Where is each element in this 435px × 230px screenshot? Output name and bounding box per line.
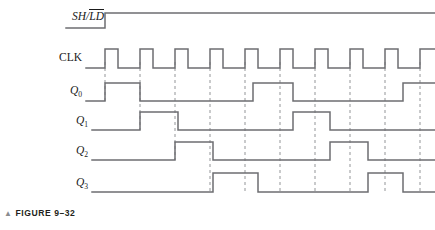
q1-subscript: 1	[84, 120, 88, 129]
caption-triangle-icon: ▲	[4, 209, 12, 218]
waveform-q2	[92, 142, 435, 160]
signal-label-clk: CLK	[46, 51, 82, 63]
timing-diagram-figure: SH/LD CLK Q0 Q1 Q2 Q3 ▲ FIGURE 9–32	[0, 0, 435, 230]
waveform-q1	[92, 112, 435, 130]
waveform-clk	[86, 49, 435, 68]
figure-caption: ▲ FIGURE 9–32	[4, 208, 75, 218]
q2-subscript: 2	[84, 150, 88, 159]
q0-subscript: 0	[78, 90, 82, 99]
signal-label-q3: Q3	[46, 176, 88, 191]
signal-label-q0: Q0	[46, 84, 82, 99]
signal-label-q1: Q1	[46, 114, 88, 129]
q0-text: Q	[70, 84, 78, 96]
q3-text: Q	[76, 176, 84, 188]
waveform-q3	[92, 173, 435, 192]
caption-text: FIGURE 9–32	[15, 208, 75, 218]
ld-overbar-text: LD	[89, 9, 104, 22]
signal-label-sh-ld: SH/LD	[46, 10, 104, 22]
q3-subscript: 3	[84, 182, 88, 191]
q2-text: Q	[76, 144, 84, 156]
signal-label-q2: Q2	[46, 144, 88, 159]
clk-text: CLK	[59, 51, 82, 63]
sh-ld-text: SH/	[72, 10, 89, 22]
waveform-q0	[86, 83, 435, 101]
q1-text: Q	[76, 114, 84, 126]
waveform-sh-ld	[66, 13, 435, 28]
